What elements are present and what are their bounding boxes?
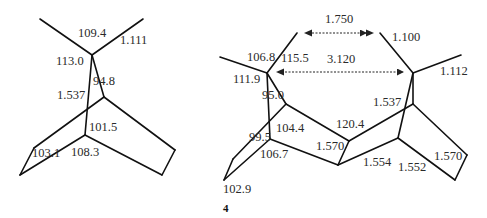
angle-label: 99.5 — [249, 131, 271, 144]
distance-label: 3.120 — [327, 53, 355, 66]
angle-label: 120.4 — [336, 118, 364, 131]
bond-length-label: 1.537 — [373, 96, 401, 109]
angle-label: 101.5 — [89, 121, 117, 134]
angle-label: 104.4 — [276, 122, 304, 135]
angle-label: 111.9 — [233, 73, 260, 86]
bond-length-label: 1.570 — [316, 140, 344, 153]
bond-length-label: 1.570 — [434, 150, 462, 163]
bond-length-label: 1.111 — [120, 34, 147, 47]
distance-label: 1.750 — [325, 13, 353, 26]
compound-number: 4 — [223, 203, 229, 214]
bond-length-label: 1.100 — [392, 31, 420, 44]
angle-label: 106.7 — [260, 148, 288, 161]
bond-length-label: 1.552 — [398, 161, 426, 174]
angle-label: 95.0 — [262, 89, 284, 102]
angle-label: 94.8 — [93, 75, 115, 88]
angle-label: 113.0 — [56, 55, 84, 68]
molecular-diagram: 109.4 1.111 113.0 94.8 1.537 101.5 103.1… — [0, 0, 487, 218]
angle-label: 106.8 — [247, 51, 275, 64]
angle-label: 102.9 — [223, 183, 251, 196]
bond-length-label: 1.537 — [57, 89, 85, 102]
angle-label: 115.5 — [281, 52, 309, 65]
angle-label: 109.4 — [78, 27, 106, 40]
bond-length-label: 1.112 — [440, 65, 468, 78]
bond-length-label: 1.554 — [363, 156, 391, 169]
angle-label: 108.3 — [71, 146, 99, 159]
angle-label: 103.1 — [32, 147, 60, 160]
